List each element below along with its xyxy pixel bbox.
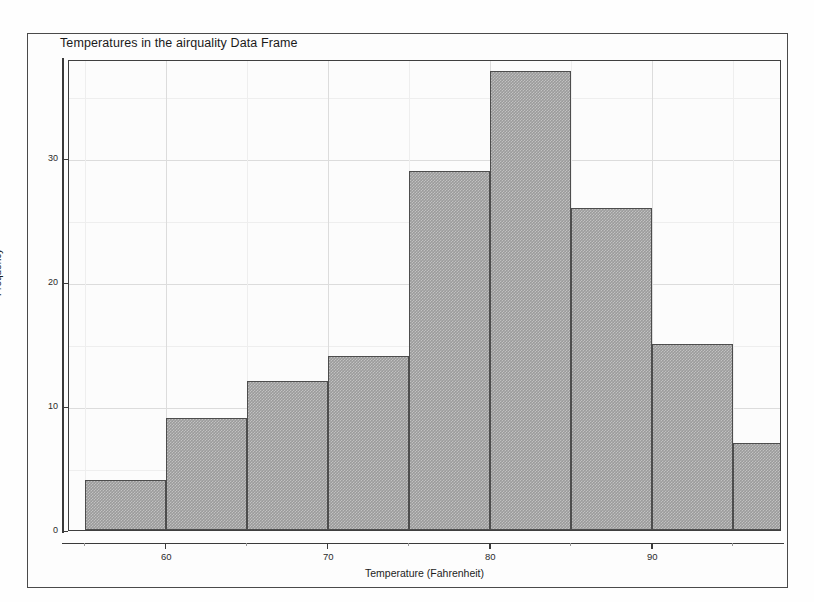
x-axis-title: Temperature (Fahrenheit) bbox=[68, 567, 781, 579]
chart-title: Temperatures in the airquality Data Fram… bbox=[60, 36, 298, 50]
y-axis-line bbox=[62, 58, 64, 533]
x-axis-minor-tick bbox=[246, 543, 247, 546]
y-axis-tick-label: 20 bbox=[48, 277, 58, 287]
y-axis-tick: 30 bbox=[62, 159, 68, 160]
histogram-bar bbox=[247, 381, 328, 530]
x-axis-tick-label: 90 bbox=[641, 551, 663, 562]
x-axis-tick-label: 80 bbox=[479, 551, 501, 562]
y-axis-tick: 20 bbox=[62, 283, 68, 284]
x-axis-tick: 80 bbox=[489, 543, 490, 549]
x-axis-tick-label: 60 bbox=[155, 551, 177, 562]
x-axis-minor-tick bbox=[570, 543, 571, 546]
plot-panel bbox=[68, 60, 781, 531]
histogram-bar bbox=[490, 71, 571, 530]
y-axis-tick: 0 bbox=[62, 531, 68, 532]
histogram-bars bbox=[69, 61, 780, 530]
y-axis-tick-label: 30 bbox=[48, 153, 58, 163]
histogram-bar bbox=[166, 418, 247, 530]
x-axis-tick: 90 bbox=[651, 543, 652, 549]
x-axis-minor-tick bbox=[732, 543, 733, 546]
x-axis-tick: 60 bbox=[165, 543, 166, 549]
histogram-bar bbox=[409, 171, 490, 530]
x-axis-minor-tick bbox=[84, 543, 85, 546]
histogram-bar bbox=[85, 480, 166, 530]
histogram-bar bbox=[733, 443, 781, 530]
histogram-bar bbox=[652, 344, 733, 530]
figure-root: Temperatures in the airquality Data Fram… bbox=[0, 0, 814, 602]
y-axis-title: Frequency bbox=[0, 249, 3, 296]
x-axis-tick-label: 70 bbox=[317, 551, 339, 562]
x-axis-line bbox=[62, 543, 784, 544]
x-axis-minor-tick bbox=[408, 543, 409, 546]
histogram-bar bbox=[571, 208, 652, 530]
histogram-bar bbox=[328, 356, 409, 530]
y-axis-tick-label: 10 bbox=[48, 401, 58, 411]
x-axis-tick: 70 bbox=[327, 543, 328, 549]
y-axis-tick-label: 0 bbox=[53, 525, 58, 535]
y-axis-tick: 10 bbox=[62, 407, 68, 408]
